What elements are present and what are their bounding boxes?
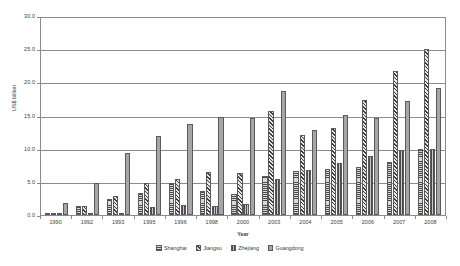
legend-swatch-icon <box>156 245 162 251</box>
bar-group <box>352 18 383 215</box>
bar-shanghai-2003 <box>262 176 267 215</box>
bar-group <box>103 18 134 215</box>
legend-swatch-icon <box>231 245 237 251</box>
bar-jiangsu-1992 <box>82 206 87 215</box>
y-axis: 0.05.010.015.020.025.030.0 <box>0 0 40 233</box>
bar-jiangsu-2005 <box>331 128 336 215</box>
bar-jiangsu-2007 <box>393 71 398 215</box>
bar-zhejiang-1992 <box>88 213 93 215</box>
bar-guangdong-1996 <box>187 124 192 215</box>
bar-guangdong-2003 <box>281 91 286 215</box>
bar-guangdong-1990 <box>63 203 68 215</box>
bar-shanghai-1995 <box>138 193 143 215</box>
bar-jiangsu-1998 <box>206 172 211 215</box>
bar-jiangsu-2004 <box>300 135 305 215</box>
bar-guangdong-1992 <box>94 183 99 215</box>
legend-item-guangdong[interactable]: Guangdong <box>268 245 304 251</box>
bar-shanghai-2007 <box>387 162 392 215</box>
y-tick-label: 30.0 <box>24 14 35 19</box>
y-tick-label: 25.0 <box>24 47 35 52</box>
bar-jiangsu-2008 <box>424 49 429 215</box>
bar-zhejiang-2008 <box>430 149 435 215</box>
legend-label: Shanghai <box>164 245 187 251</box>
y-axis-title: US$ billion <box>11 68 17 128</box>
bar-group <box>196 18 227 215</box>
y-tick-label: 5.0 <box>27 180 35 185</box>
legend-label: Jiangsu <box>203 245 222 251</box>
y-tick-label: 20.0 <box>24 81 35 86</box>
bar-shanghai-1998 <box>200 191 205 215</box>
legend-item-shanghai[interactable]: Shanghai <box>156 245 186 251</box>
bar-guangdong-2000 <box>250 118 255 215</box>
bar-group <box>134 18 165 215</box>
bar-zhejiang-2007 <box>399 150 404 215</box>
bar-guangdong-1995 <box>156 136 161 215</box>
bar-group <box>321 18 352 215</box>
bar-shanghai-2005 <box>325 169 330 215</box>
bar-shanghai-2006 <box>356 167 361 215</box>
bar-group <box>165 18 196 215</box>
bar-zhejiang-2003 <box>275 179 280 215</box>
bar-jiangsu-2006 <box>362 100 367 215</box>
bar-group <box>259 18 290 215</box>
bar-jiangsu-2000 <box>237 173 242 215</box>
bar-guangdong-2004 <box>312 130 317 215</box>
bar-zhejiang-1996 <box>181 205 186 216</box>
legend-swatch-icon <box>268 245 274 251</box>
x-tick-mark <box>446 216 447 219</box>
bar-guangdong-2005 <box>343 115 348 215</box>
y-tick-label: 15.0 <box>24 114 35 119</box>
legend-label: Guangdong <box>275 245 303 251</box>
y-tick-label: 0.0 <box>27 213 35 218</box>
bar-jiangsu-1990 <box>51 213 56 215</box>
bar-jiangsu-2003 <box>268 111 273 215</box>
bar-chart: 0.05.010.015.020.025.030.0 US$ billion 1… <box>0 0 460 266</box>
bar-zhejiang-2005 <box>337 163 342 215</box>
bar-zhejiang-2004 <box>306 170 311 215</box>
legend-item-jiangsu[interactable]: Jiangsu <box>196 245 222 251</box>
y-tick-label: 10.0 <box>24 147 35 152</box>
bar-guangdong-2006 <box>374 118 379 215</box>
legend-swatch-icon <box>196 245 202 251</box>
chart-legend: ShanghaiJiangsuZhejiangGuangdong <box>0 245 460 251</box>
bars-layer <box>41 18 445 215</box>
x-axis-title: Year <box>40 231 446 238</box>
bar-group <box>41 18 72 215</box>
bar-shanghai-1993 <box>107 199 112 215</box>
bar-group <box>383 18 414 215</box>
bar-shanghai-1990 <box>45 213 50 215</box>
bar-group <box>414 18 445 215</box>
bar-zhejiang-1990 <box>57 213 62 215</box>
bar-zhejiang-1998 <box>212 206 217 215</box>
bar-group <box>72 18 103 215</box>
bar-guangdong-2007 <box>405 101 410 215</box>
bar-zhejiang-2000 <box>243 204 248 215</box>
bar-zhejiang-2006 <box>368 156 373 215</box>
legend-item-zhejiang[interactable]: Zhejiang <box>231 245 259 251</box>
bar-shanghai-2004 <box>293 171 298 215</box>
bar-zhejiang-1993 <box>119 213 124 215</box>
bar-guangdong-2008 <box>436 88 441 215</box>
bar-guangdong-1993 <box>125 153 130 215</box>
bar-guangdong-1998 <box>218 117 223 216</box>
bar-jiangsu-1996 <box>175 179 180 215</box>
bar-shanghai-2000 <box>231 194 236 215</box>
legend-label: Zhejiang <box>238 245 259 251</box>
bar-shanghai-1992 <box>76 206 81 215</box>
bar-group <box>227 18 258 215</box>
bar-group <box>290 18 321 215</box>
bar-jiangsu-1995 <box>144 183 149 215</box>
bar-shanghai-2008 <box>418 149 423 215</box>
bar-shanghai-1996 <box>169 183 174 215</box>
bar-jiangsu-1993 <box>113 196 118 215</box>
bar-zhejiang-1995 <box>150 207 155 215</box>
